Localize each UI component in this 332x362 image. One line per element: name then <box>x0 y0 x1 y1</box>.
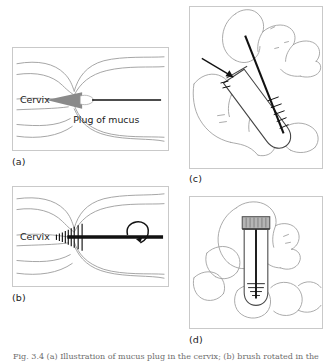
panel-capped-specimen-tube <box>189 196 323 329</box>
plug-of-mucus-label: Plug of mucus <box>73 114 139 125</box>
brush-assembly <box>56 222 163 251</box>
cervix-label: Cervix <box>20 231 50 242</box>
panel-c-label: (c) <box>189 173 202 184</box>
figure-container: Cervix Plug of mucus (a) <box>0 0 332 362</box>
cervix-label: Cervix <box>20 94 50 105</box>
panel-a-illustration: Cervix Plug of mucus <box>13 48 168 150</box>
mucus-plug-shape <box>47 92 83 109</box>
panel-b-label: (b) <box>12 292 26 303</box>
figure-caption-clipped: Fig. 3.4 (a) Illustration of mucus plug … <box>13 353 319 362</box>
panel-d-label: (d) <box>189 334 203 345</box>
mucus-plug-tip <box>80 95 94 104</box>
panel-b-illustration: Cervix <box>13 187 168 286</box>
panel-c-illustration <box>190 7 322 168</box>
panel-d-illustration <box>190 197 322 328</box>
tube-body <box>223 69 290 148</box>
panel-cervix-mucus-plug: Cervix Plug of mucus <box>12 47 169 151</box>
panel-snap-brush-into-tube <box>189 6 323 169</box>
figure-caption-text: Fig. 3.4 (a) Illustration of mucus plug … <box>13 353 319 362</box>
upper-hand-outline <box>223 10 321 77</box>
panel-a-label: (a) <box>12 156 26 167</box>
specimen-tube-diagonal <box>223 66 290 148</box>
panel-brush-rotation: Cervix <box>12 186 169 287</box>
